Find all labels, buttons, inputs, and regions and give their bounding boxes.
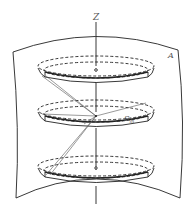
disk-top-band-inner (45, 72, 148, 78)
point-label-subscript: m (129, 118, 134, 124)
diagram-svg: Z A (0, 0, 196, 216)
point-s-m-label: Sm (124, 114, 134, 124)
surface-label: A (167, 51, 174, 60)
surface-top-edge (13, 36, 178, 52)
disk-bottom-band-outer (38, 168, 154, 183)
ray-bottom-b (50, 116, 96, 175)
point-s-m (95, 115, 97, 117)
disk-bottom-band-inner (45, 172, 148, 178)
ray-right (96, 103, 146, 116)
disk-top-center-dot (95, 69, 98, 72)
z-axis-label: Z (92, 12, 100, 22)
surface-right-edge (178, 50, 183, 198)
surface-bottom-edge (16, 179, 180, 198)
diagram-canvas: Z A (0, 0, 196, 216)
surface-sheet (13, 36, 183, 198)
convergence-rays (42, 76, 146, 175)
disk-middle-band-outer (38, 112, 154, 127)
surface-left-edge (13, 52, 17, 198)
disk-bottom-center-dot (95, 167, 97, 169)
